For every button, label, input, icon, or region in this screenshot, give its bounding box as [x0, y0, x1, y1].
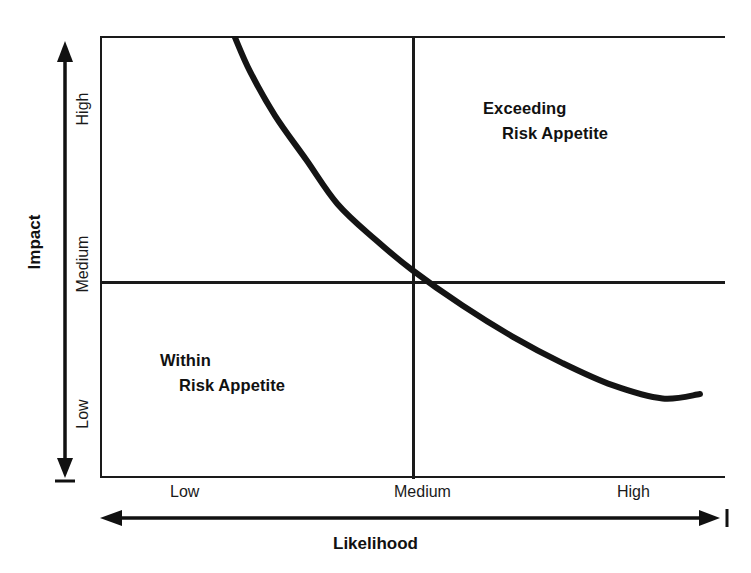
- y-tick-label-low: Low: [74, 369, 92, 459]
- y-axis-title-impact: Impact: [25, 197, 45, 287]
- quadrant-label-exceeding-risk-appetite: Exceeding Risk Appetite: [483, 96, 608, 146]
- x-tick-label-high: High: [617, 483, 650, 501]
- quadrant-within-line1: Within: [160, 351, 211, 369]
- quadrant-within-line2: Risk Appetite: [160, 373, 285, 398]
- risk-appetite-chart: Exceeding Risk Appetite Within Risk Appe…: [0, 0, 751, 573]
- quadrant-exceeding-line2: Risk Appetite: [483, 121, 608, 146]
- y-tick-label-high: High: [74, 64, 92, 154]
- x-tick-label-low: Low: [170, 483, 199, 501]
- quadrant-exceeding-line1: Exceeding: [483, 99, 566, 117]
- likelihood-axis-arrow-icon: [98, 506, 730, 530]
- y-tick-label-medium: Medium: [74, 219, 92, 309]
- x-axis-title-likelihood: Likelihood: [0, 534, 751, 554]
- x-tick-label-medium: Medium: [394, 483, 451, 501]
- quadrant-label-within-risk-appetite: Within Risk Appetite: [160, 348, 285, 398]
- medium-likelihood-divider-line: [412, 36, 415, 479]
